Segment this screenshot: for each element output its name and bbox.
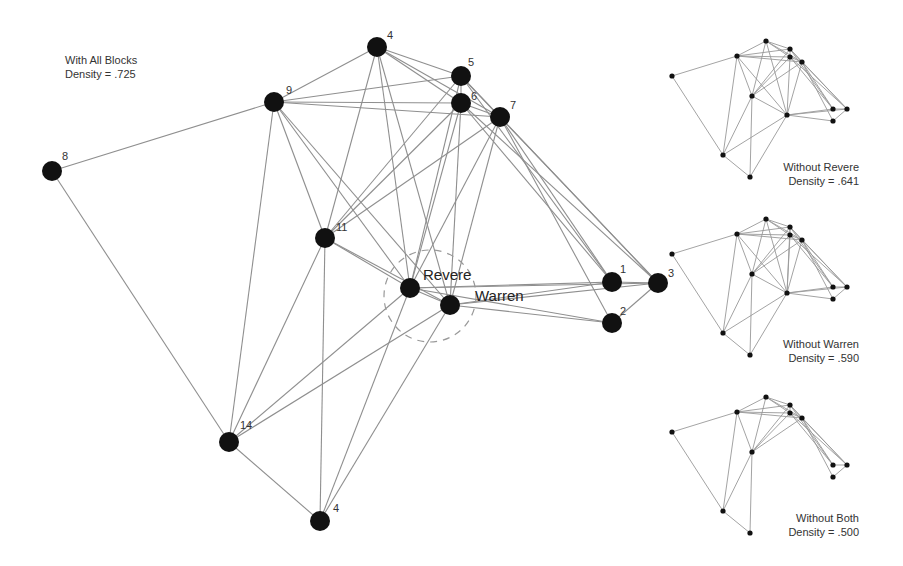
graph-edge [500,117,658,283]
graph-edge [377,47,500,117]
without-revere-graph [669,38,849,179]
graph-edge [752,413,790,452]
node-n14 [720,330,725,335]
node-n7 [799,415,804,420]
graph-edge [229,442,320,521]
graph-edge [752,57,790,96]
node-n9 [264,92,284,112]
graph-edge [52,171,229,442]
node-n1 [830,462,835,467]
network-diagram: 45679811RevereWarren132144 [0,0,903,566]
graph-edge [802,418,847,465]
node-label: 4 [387,29,393,41]
node-n4t [763,394,768,399]
without-revere-title: Without Revere [739,160,859,174]
node-n6 [451,93,471,113]
node-n3 [844,462,849,467]
node-n3 [844,284,849,289]
node-label: 7 [510,99,516,111]
node-n6 [787,54,792,59]
node-n14 [720,152,725,157]
main-graph: 45679811RevereWarren132144 [42,29,674,531]
node-n5 [451,66,471,86]
graph-edge [274,102,410,288]
graph-edge [752,274,787,293]
node-n11 [749,271,754,276]
node-label: 9 [286,84,292,96]
main-graph-title: With All Blocks [65,53,137,67]
node-n11 [315,228,335,248]
node-label: 1 [620,263,626,275]
node-n4t [763,216,768,221]
main-graph-density: Density = .725 [65,67,137,81]
graph-edge [229,288,410,442]
node-n4t [367,37,387,57]
graph-edge [802,418,833,465]
node-n1 [830,106,835,111]
graph-edge [461,103,612,282]
node-label: 11 [336,221,347,233]
graph-edge [377,47,461,76]
main-graph-caption: With All Blocks Density = .725 [65,53,137,81]
graph-edge [833,287,847,299]
node-war [784,112,789,117]
graph-edge [450,305,612,323]
node-n2 [830,296,835,301]
node-n14 [219,432,239,452]
node-n9 [734,409,739,414]
node-n7 [799,59,804,64]
node-n6 [787,410,792,415]
node-n11 [749,449,754,454]
graph-edge [672,76,723,155]
graph-edge [787,109,847,115]
graph-edge [672,412,737,432]
graph-edge [274,102,325,238]
node-label: 3 [668,267,674,279]
graph-edge [377,47,410,288]
node-n8 [669,429,674,434]
node-n2 [830,474,835,479]
without-warren-caption: Without Warren Density = .590 [739,337,859,365]
node-n5 [787,224,792,229]
node-n9 [734,53,739,58]
node-n4b [310,511,330,531]
graph-edge [737,412,752,452]
graph-edge [787,293,833,299]
node-n5 [787,402,792,407]
node-label: 4 [333,502,339,514]
graph-edge [325,238,410,288]
node-n3 [648,273,668,293]
graph-edge [325,47,377,238]
node-label: 6 [471,90,477,102]
graph-edge [737,234,752,274]
graph-edge [752,235,790,274]
without-both-caption: Without Both Density = .500 [739,511,859,539]
graph-edge [802,62,847,109]
graph-edge [500,117,612,282]
graph-edge [737,56,752,96]
graph-edge [377,47,461,103]
graph-edge [672,56,737,76]
node-n8 [669,73,674,78]
node-label: 5 [468,56,474,68]
graph-edge [274,102,461,103]
node-n1 [830,284,835,289]
node-n2 [602,313,622,333]
graph-edge [461,103,658,283]
graph-edge [790,413,833,465]
graph-edge [672,254,723,333]
node-n11 [749,93,754,98]
node-war [440,295,460,315]
node-n2 [830,118,835,123]
node-n5 [787,46,792,51]
node-label: 2 [620,305,626,317]
graph-edge [320,288,410,521]
node-n8 [669,251,674,256]
graph-edge [410,117,500,288]
without-both-title: Without Both [739,511,859,525]
graph-edge [229,238,325,442]
node-rev [784,290,789,295]
graph-edge [325,76,461,238]
node-n8 [42,161,62,181]
graph-edge [52,102,274,171]
